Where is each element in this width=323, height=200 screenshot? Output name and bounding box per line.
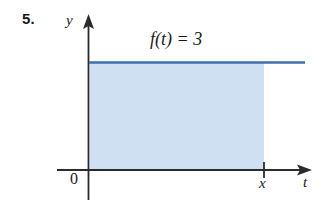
x-tick-label: x — [259, 175, 266, 191]
origin-label: 0 — [70, 170, 78, 188]
shaded-area-region — [90, 63, 264, 170]
figure-root: 5. y t x 0 f(t) = 3 — [0, 0, 323, 200]
y-axis-label: y — [66, 12, 73, 28]
t-axis-label: t — [303, 174, 307, 190]
function-label: f(t) = 3 — [150, 28, 202, 50]
